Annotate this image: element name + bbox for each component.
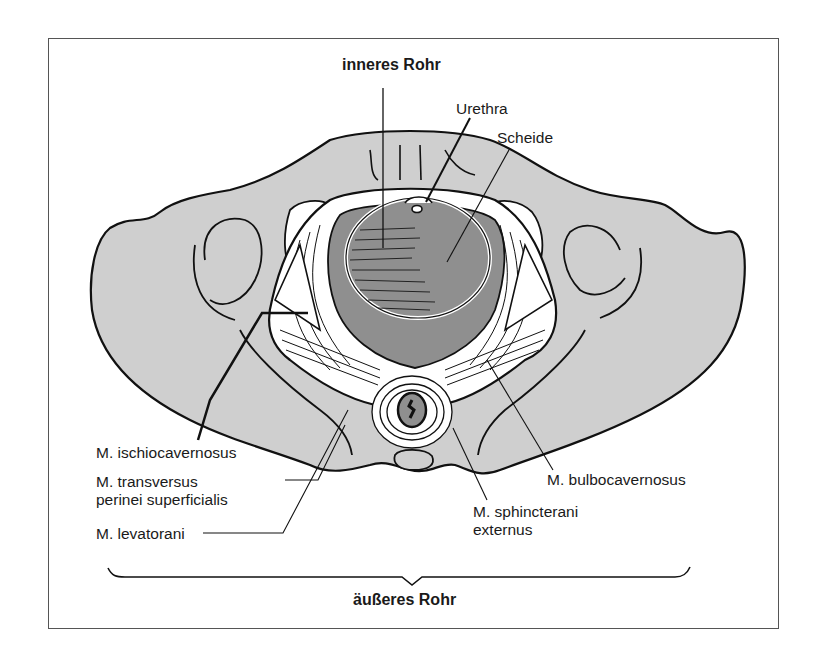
label-sphincter-2: externus	[473, 520, 532, 539]
pelvic-floor-illustration	[0, 0, 819, 662]
inner-tube	[346, 198, 490, 318]
label-transversus-2: perinei superficialis	[96, 490, 228, 509]
label-aeusseres-rohr: äußeres Rohr	[353, 590, 456, 609]
label-transversus-1: M. transversus	[96, 472, 198, 491]
bottom-brace	[108, 567, 690, 585]
label-ischiocavernosus: M. ischiocavernosus	[96, 443, 236, 462]
label-scheide: Scheide	[497, 128, 553, 147]
label-levatorani: M. levatorani	[96, 524, 185, 543]
label-sphincter-1: M. sphincterani	[473, 502, 578, 521]
coccyx	[394, 450, 433, 470]
label-bulbocavernosus: M. bulbocavernosus	[547, 470, 686, 489]
label-urethra: Urethra	[456, 99, 508, 118]
label-inneres-rohr: inneres Rohr	[342, 55, 441, 74]
urethra-opening	[412, 206, 422, 213]
